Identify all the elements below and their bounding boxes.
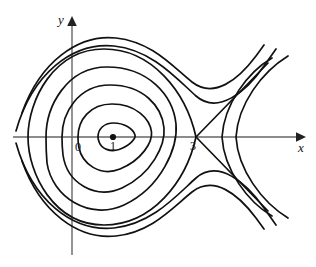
saddle-point-label: 3: [190, 139, 196, 154]
x-axis-label: x: [298, 140, 304, 156]
phase-portrait-figure: [0, 0, 316, 267]
figure-background: [0, 0, 316, 267]
center-point-label: 1: [110, 139, 116, 154]
origin-tick-label: 0: [75, 140, 81, 155]
y-axis-label: y: [58, 12, 64, 28]
